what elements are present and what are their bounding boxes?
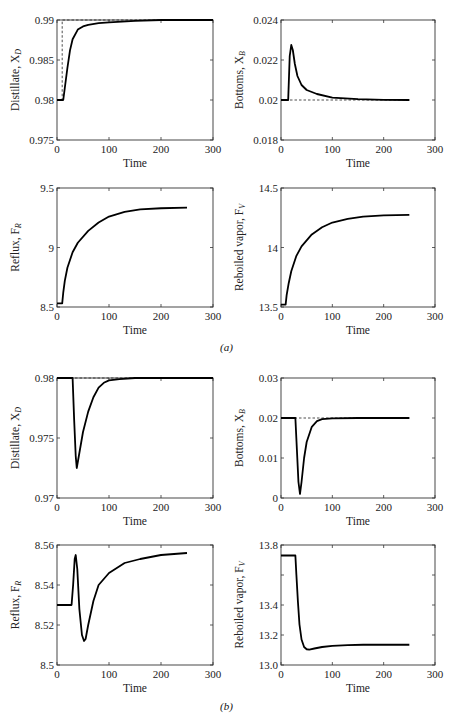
response-curve	[57, 378, 213, 468]
panel-label-a: (a)	[220, 341, 233, 353]
chart-a_fr: 01002003008.599.5TimeReflux, FR	[9, 182, 222, 336]
x-tick-label: 0	[278, 310, 284, 322]
response-curve	[281, 418, 409, 494]
x-tick-label: 300	[205, 143, 222, 155]
plot-frame	[281, 188, 435, 307]
x-tick-label: 200	[375, 501, 392, 513]
x-tick-label: 100	[324, 501, 341, 513]
x-tick-label: 0	[278, 668, 284, 680]
y-tick-label: 0.024	[253, 14, 278, 26]
y-tick-label: 13.0	[259, 659, 279, 671]
y-tick-label: 8.54	[35, 579, 55, 591]
y-axis-label: Distillate, XD	[9, 407, 23, 469]
y-axis-label: Reflux, FR	[9, 223, 23, 271]
response-curve	[281, 45, 409, 100]
x-tick-label: 100	[324, 143, 341, 155]
y-axis-label: Distillate, XD	[9, 49, 23, 111]
y-tick-label: 0	[273, 492, 279, 504]
x-tick-label: 200	[375, 143, 392, 155]
x-tick-label: 300	[427, 668, 444, 680]
x-tick-label: 200	[153, 668, 170, 680]
x-tick-label: 300	[427, 143, 444, 155]
x-tick-label: 0	[54, 501, 60, 513]
x-axis-label: Time	[123, 157, 147, 169]
x-tick-label: 300	[427, 501, 444, 513]
x-axis-label: Time	[123, 324, 147, 336]
y-tick-label: 0.985	[29, 54, 54, 66]
panel-label-b: (b)	[220, 700, 233, 712]
x-tick-label: 300	[205, 310, 222, 322]
y-tick-label: 0.01	[259, 452, 278, 464]
x-axis-label: Time	[123, 682, 147, 694]
x-axis-label: Time	[346, 324, 370, 336]
x-tick-label: 100	[324, 668, 341, 680]
y-axis-label: Bottoms, XB	[233, 51, 247, 109]
y-tick-label: 0.018	[253, 134, 278, 146]
x-tick-label: 100	[101, 668, 118, 680]
response-curve	[57, 20, 213, 100]
x-tick-label: 0	[278, 501, 284, 513]
y-tick-label: 0.02	[259, 412, 278, 424]
y-tick-label: 8.5	[40, 659, 54, 671]
x-tick-label: 100	[101, 143, 118, 155]
y-tick-label: 0.975	[29, 432, 54, 444]
chart-b_xb: 010020030000.010.020.03TimeBottoms, XB	[233, 372, 444, 527]
y-tick-label: 9	[49, 242, 55, 254]
y-tick-label: 14.5	[259, 182, 279, 194]
chart-a_xb: 01002003000.0180.020.0220.024TimeBottoms…	[233, 14, 444, 169]
x-tick-label: 0	[54, 310, 60, 322]
x-tick-label: 200	[153, 310, 170, 322]
y-tick-label: 13.8	[259, 539, 279, 551]
x-tick-label: 300	[427, 310, 444, 322]
plot-frame	[57, 20, 213, 140]
y-tick-label: 14	[267, 242, 279, 254]
response-curve	[57, 553, 187, 641]
y-axis-label: Reboiled vapor, FV	[233, 203, 247, 291]
x-tick-label: 200	[153, 143, 170, 155]
y-axis-label: Reflux, FR	[9, 581, 23, 629]
y-tick-label: 0.03	[259, 372, 279, 384]
response-curve	[57, 208, 187, 304]
x-tick-label: 200	[375, 668, 392, 680]
plot-frame	[281, 378, 435, 498]
y-tick-label: 0.975	[29, 134, 54, 146]
x-tick-label: 0	[278, 143, 284, 155]
x-axis-label: Time	[346, 157, 370, 169]
x-axis-label: Time	[346, 682, 370, 694]
plot-frame	[57, 545, 213, 665]
figure-canvas: 01002003000.9750.980.9850.99TimeDistilla…	[0, 0, 456, 718]
chart-b_fv: 010020030013.013.213.413.8TimeReboiled v…	[233, 539, 444, 694]
response-curve	[281, 215, 409, 305]
y-tick-label: 13.2	[259, 629, 278, 641]
y-tick-label: 0.97	[35, 492, 55, 504]
plot-frame	[57, 188, 213, 307]
x-axis-label: Time	[346, 515, 370, 527]
x-tick-label: 100	[101, 310, 118, 322]
x-tick-label: 100	[101, 501, 118, 513]
plot-frame	[57, 378, 213, 498]
y-tick-label: 0.98	[35, 372, 55, 384]
chart-a_fv: 010020030013.51414.5TimeReboiled vapor, …	[233, 182, 444, 336]
y-tick-label: 0.022	[253, 54, 278, 66]
x-tick-label: 0	[54, 668, 60, 680]
chart-b_xd: 01002003000.970.9750.98TimeDistillate, X…	[9, 372, 222, 527]
plot-frame	[281, 20, 435, 140]
x-tick-label: 300	[205, 668, 222, 680]
y-tick-label: 9.5	[40, 182, 54, 194]
chart-a_xd: 01002003000.9750.980.9850.99TimeDistilla…	[9, 14, 222, 169]
y-tick-label: 0.99	[35, 14, 55, 26]
y-axis-label: Reboiled vapor, FV	[233, 560, 247, 648]
response-curve	[281, 556, 409, 650]
x-tick-label: 0	[54, 143, 60, 155]
x-axis-label: Time	[123, 515, 147, 527]
y-axis-label: Bottoms, XB	[233, 409, 247, 467]
chart-b_fr: 01002003008.58.528.548.56TimeReflux, FR	[9, 539, 222, 694]
x-tick-label: 300	[205, 501, 222, 513]
x-tick-label: 100	[324, 310, 341, 322]
x-tick-label: 200	[153, 501, 170, 513]
y-tick-label: 8.56	[35, 539, 55, 551]
y-tick-label: 13.5	[259, 301, 279, 313]
y-tick-label: 8.52	[35, 619, 54, 631]
setpoint-line	[57, 20, 213, 100]
x-tick-label: 200	[375, 310, 392, 322]
